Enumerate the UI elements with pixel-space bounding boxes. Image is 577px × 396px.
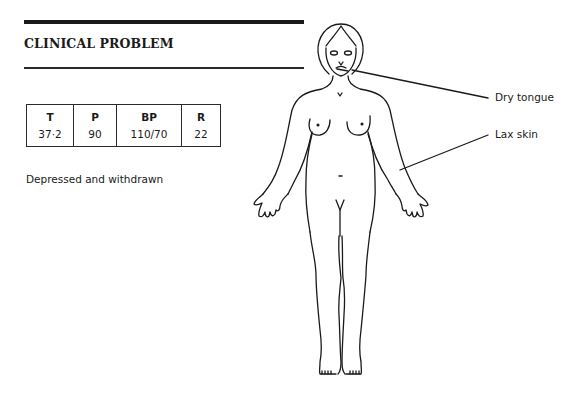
annotation-lax-skin: Lax skin [495, 128, 538, 140]
right-hand-icon [396, 194, 428, 217]
left-hand-icon [254, 194, 288, 217]
legs-icon [310, 232, 370, 374]
torso-icon [263, 76, 418, 236]
annotation-dry-tongue: Dry tongue [495, 91, 554, 103]
lax-skin-leader-line [400, 135, 488, 170]
body-diagram-figure [0, 0, 577, 396]
head-icon [318, 24, 363, 76]
dry-tongue-leader-line [352, 70, 488, 98]
